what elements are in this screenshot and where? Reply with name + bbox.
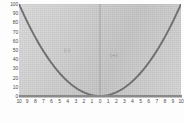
parabola-chart-figure: 1009080706050403020100 10987654321012345…	[0, 0, 184, 123]
y-tick-label: 80	[1, 19, 18, 25]
annotation-positive-region: (+)	[110, 52, 118, 59]
y-tick-label: 20	[1, 75, 18, 81]
x-axis-tick-labels: 10987654321012345678910	[19, 98, 182, 110]
y-tick-label: 60	[1, 38, 18, 44]
plot-area	[19, 4, 181, 96]
y-tick-label: 90	[1, 10, 18, 16]
y-tick-label: 50	[1, 47, 18, 53]
x-tick-label: 10	[176, 98, 184, 105]
y-tick-label: 30	[1, 65, 18, 71]
curve-svg	[19, 4, 181, 96]
y-tick-label: 10	[1, 84, 18, 90]
y-tick-label: 100	[1, 1, 18, 7]
y-tick-label: 70	[1, 29, 18, 35]
x-axis-line	[19, 95, 182, 97]
annotation-negative-region: (-)	[64, 47, 70, 54]
y-tick-label: 40	[1, 56, 18, 62]
y-axis-tick-labels: 1009080706050403020100	[0, 0, 18, 100]
